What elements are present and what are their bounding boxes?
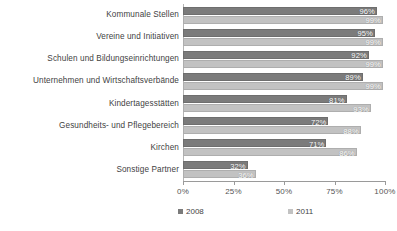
category-label: Kindertagesstätten [0,99,179,108]
bar-value-label: 99% [363,38,381,47]
x-tick-label: 0% [163,187,203,196]
x-tick-mark [183,181,184,185]
legend-swatch-icon [288,209,293,214]
bar-2011 [183,104,371,112]
bar-2008 [183,7,377,15]
x-tick-label: 75% [315,187,355,196]
legend-item-2008[interactable]: 2008 [178,207,204,216]
bar-value-label: 99% [363,82,381,91]
x-tick-mark [385,181,386,185]
category-label: Kommunale Stellen [0,10,179,19]
category-label: Schulen und Bildungseinrichtungen [0,54,179,63]
bar-2008 [183,95,347,103]
x-tick-label: 100% [365,187,397,196]
category-label: Kirchen [0,143,179,152]
bar-chart: 0%25%50%75%100% 20082011 Kommunale Stell… [0,0,397,231]
bar-value-label: 88% [341,127,359,136]
category-label: Gesundheits- und Pflegebereich [0,121,179,130]
category-label: Vereine und Initiativen [0,32,179,41]
category-label: Sonstige Partner [0,165,179,174]
bar-2011 [183,126,361,134]
legend-item-2011[interactable]: 2011 [288,207,313,216]
bar-2011 [183,148,357,156]
legend-label: 2008 [186,207,204,216]
bar-2008 [183,139,326,147]
bar-value-label: 86% [337,149,355,158]
category-label: Unternehmen und Wirtschaftsverbände [0,76,179,85]
bar-value-label: 99% [363,60,381,69]
bar-2011 [183,82,383,90]
x-tick-label: 25% [214,187,254,196]
x-tick-mark [284,181,285,185]
bar-2011 [183,60,383,68]
x-tick-mark [335,181,336,185]
bar-2011 [183,16,383,24]
bar-2008 [183,51,369,59]
bar-value-label: 93% [351,105,369,114]
bar-2008 [183,29,375,37]
bar-value-label: 99% [363,16,381,25]
x-tick-label: 50% [264,187,304,196]
x-tick-mark [234,181,235,185]
bar-2008 [183,73,363,81]
bar-2011 [183,38,383,46]
bar-value-label: 36% [236,171,254,180]
legend-label: 2011 [296,207,313,216]
legend-swatch-icon [178,209,183,214]
bar-2008 [183,117,328,125]
